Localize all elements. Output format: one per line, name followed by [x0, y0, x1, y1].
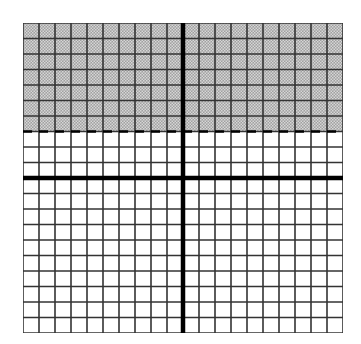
coordinate-grid	[23, 23, 343, 333]
grid-svg	[23, 23, 343, 333]
